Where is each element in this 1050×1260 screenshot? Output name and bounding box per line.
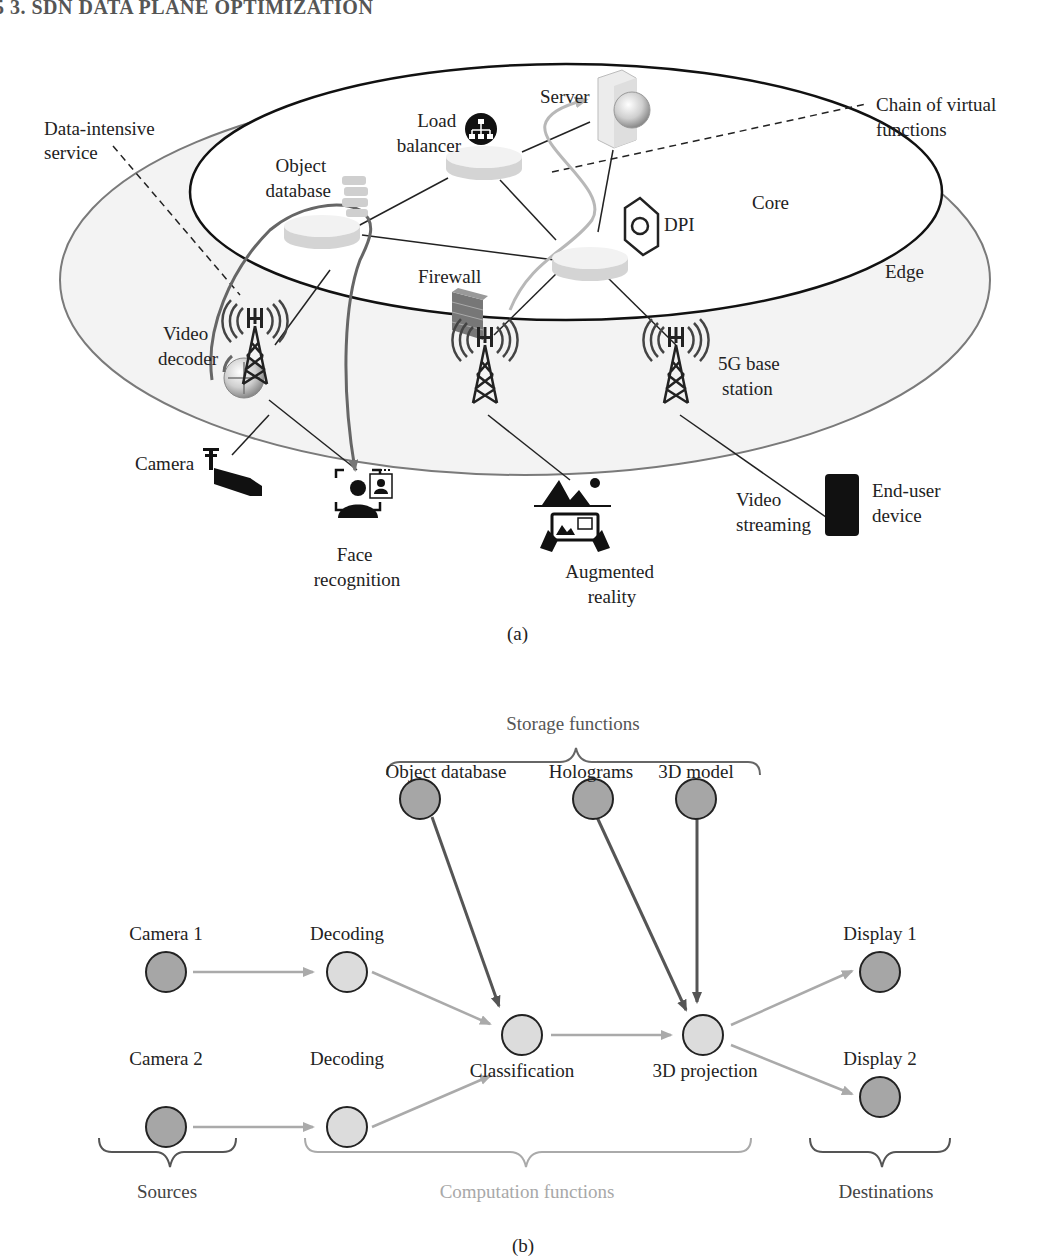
- node-decoding-2: [327, 1107, 367, 1147]
- node-classification: [502, 1015, 542, 1055]
- caption-a: (a): [507, 623, 528, 645]
- label-node-camera-2: Camera 2: [129, 1048, 202, 1069]
- label-chain: Chain of virtual functions: [876, 94, 1001, 140]
- label-edge: Edge: [885, 261, 924, 282]
- label-face-recognition: Face recognition: [314, 544, 401, 590]
- label-camera: Camera: [135, 453, 195, 474]
- node-decoding-1: [327, 952, 367, 992]
- node-3d-projection: [683, 1015, 723, 1055]
- node-display-2: [860, 1077, 900, 1117]
- end-user-device-icon: [825, 474, 859, 536]
- label-node-classification: Classification: [470, 1060, 575, 1081]
- group-computation-label: Computation functions: [440, 1181, 615, 1202]
- label-dpi: DPI: [664, 214, 695, 235]
- node-holograms: [573, 779, 613, 819]
- figure-a: Data-intensive service Chain of virtual …: [44, 64, 1001, 645]
- label-node-display-1: Display 1: [843, 923, 916, 944]
- label-node-3d-model: 3D model: [658, 761, 733, 782]
- router-object-database: [284, 215, 360, 249]
- node-camera-1: [146, 952, 186, 992]
- label-core: Core: [752, 192, 789, 213]
- storage-arrows: [432, 815, 697, 1010]
- label-node-object-database: Object database: [386, 761, 507, 782]
- figure-b: Storage functions: [99, 713, 950, 1257]
- node-display-1: [860, 952, 900, 992]
- destinations-brace: [810, 1138, 950, 1167]
- label-video-streaming: Video streaming: [736, 489, 811, 535]
- augmented-reality-icon: [534, 478, 611, 552]
- running-head: 5 3. SDN DATA PLANE OPTIMIZATION: [0, 0, 373, 18]
- label-node-display-2: Display 2: [843, 1048, 916, 1069]
- caption-b: (b): [512, 1235, 534, 1257]
- router-dpi: [552, 247, 628, 281]
- label-node-3d-projection: 3D projection: [652, 1060, 758, 1081]
- node-camera-2: [146, 1107, 186, 1147]
- label-end-user-device: End-user device: [872, 480, 945, 526]
- label-data-intensive: Data-intensive service: [44, 118, 160, 163]
- label-node-decoding-2: Decoding: [310, 1048, 384, 1069]
- group-destinations-label: Destinations: [839, 1181, 934, 1202]
- label-augmented-reality: Augmented reality: [565, 561, 658, 607]
- figure-canvas: 5 3. SDN DATA PLANE OPTIMIZATION: [0, 0, 1050, 1260]
- label-node-decoding-1: Decoding: [310, 923, 384, 944]
- label-node-camera-1: Camera 1: [129, 923, 202, 944]
- node-3d-model: [676, 779, 716, 819]
- load-balancer-icon: [465, 113, 497, 145]
- label-firewall: Firewall: [418, 266, 481, 287]
- node-object-database: [400, 779, 440, 819]
- computation-brace: [305, 1138, 751, 1167]
- face-recognition-icon: [336, 470, 392, 518]
- label-node-holograms: Holograms: [549, 761, 633, 782]
- group-storage-label: Storage functions: [506, 713, 640, 734]
- label-server: Server: [540, 86, 590, 107]
- group-sources-label: Sources: [137, 1181, 197, 1202]
